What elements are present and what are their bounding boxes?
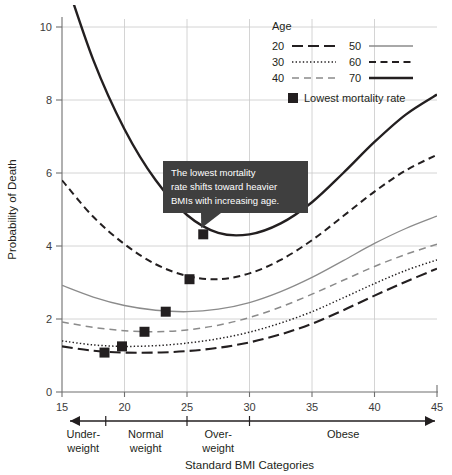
x-tick-label-45: 45 xyxy=(431,401,443,413)
lowest-mortality-marker-age-70 xyxy=(198,229,208,239)
lowest-mortality-marker-age-40 xyxy=(140,327,150,337)
y-tick-label-10: 10 xyxy=(40,21,52,33)
legend-label-age-30: 30 xyxy=(272,56,284,68)
bmi-mortality-chart: 024681015202530354045Probability of Deat… xyxy=(0,0,452,475)
category-label-3-line2: weight xyxy=(201,442,234,454)
lowest-mortality-marker-age-50 xyxy=(161,307,171,317)
category-axis-left-arrow xyxy=(70,416,80,426)
legend-label-age-20: 20 xyxy=(272,40,284,52)
lowest-mortality-marker-age-20 xyxy=(100,348,110,358)
y-tick-label-4: 4 xyxy=(46,240,52,252)
lowest-mortality-marker-age-60 xyxy=(185,274,195,284)
category-label-1-line2: weight xyxy=(66,442,99,454)
category-axis-right-arrow xyxy=(425,416,435,426)
x-tick-label-40: 40 xyxy=(368,401,380,413)
x-tick-label-30: 30 xyxy=(243,401,255,413)
x-tick-label-20: 20 xyxy=(118,401,130,413)
x-tick-label-35: 35 xyxy=(306,401,318,413)
y-tick-label-2: 2 xyxy=(46,313,52,325)
lowest-mortality-marker-age-30 xyxy=(117,341,127,351)
x-axis-title: Standard BMI Categories xyxy=(185,459,314,471)
legend-marker-swatch xyxy=(288,93,298,103)
chart-svg: 024681015202530354045Probability of Deat… xyxy=(0,0,452,475)
category-label-2-line1: Normal xyxy=(128,428,163,440)
legend-label-age-50: 50 xyxy=(349,40,361,52)
category-label-1-line1: Under- xyxy=(66,428,100,440)
y-tick-label-6: 6 xyxy=(46,167,52,179)
annotation-line-3: BMIs with increasing age. xyxy=(171,195,279,206)
x-tick-label-25: 25 xyxy=(181,401,193,413)
x-tick-label-15: 15 xyxy=(56,401,68,413)
y-axis-title: Probability of Death xyxy=(6,159,18,259)
y-tick-label-8: 8 xyxy=(46,94,52,106)
category-label-4-line1: Obese xyxy=(327,428,359,440)
y-tick-label-0: 0 xyxy=(46,386,52,398)
annotation-pointer xyxy=(201,213,221,228)
annotation-line-2: rate shifts toward heavier xyxy=(171,181,277,192)
legend-label-age-60: 60 xyxy=(349,56,361,68)
annotation-line-1: The lowest mortality xyxy=(171,167,256,178)
legend-title: Age xyxy=(272,20,292,32)
category-label-3-line1: Over- xyxy=(205,428,233,440)
legend-marker-label: Lowest mortality rate xyxy=(304,92,405,104)
legend-label-age-70: 70 xyxy=(349,72,361,84)
category-label-2-line2: weight xyxy=(129,442,162,454)
legend-label-age-40: 40 xyxy=(272,72,284,84)
